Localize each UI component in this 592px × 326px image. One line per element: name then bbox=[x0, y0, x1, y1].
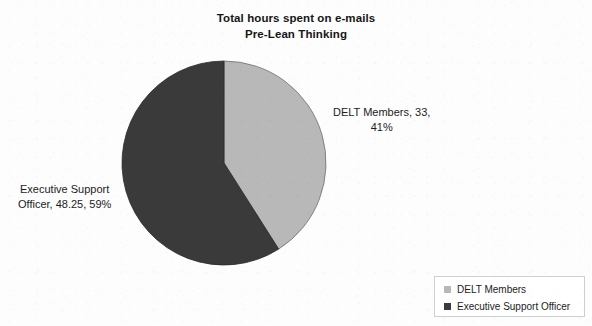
chart-title-line-2: Pre-Lean Thinking bbox=[0, 26, 592, 42]
legend-swatch-icon-delt-members bbox=[444, 286, 451, 293]
data-label-executive-support-officer-line-2: Officer, 48.25, 59% bbox=[18, 197, 111, 212]
data-label-executive-support-officer-line-1: Executive Support bbox=[18, 182, 111, 197]
data-label-delt-members: DELT Members, 33, 41% bbox=[333, 105, 430, 135]
legend-item-executive-support-officer[interactable]: Executive Support Officer bbox=[444, 299, 584, 314]
chart-legend: DELT Members Executive Support Officer bbox=[434, 276, 585, 317]
data-label-delt-members-line-1: DELT Members, 33, bbox=[333, 105, 430, 120]
chart-canvas: Total hours spent on e-mails Pre-Lean Th… bbox=[0, 0, 592, 326]
chart-title: Total hours spent on e-mails Pre-Lean Th… bbox=[0, 10, 592, 42]
pie-chart-svg bbox=[121, 60, 327, 266]
data-label-delt-members-line-2: 41% bbox=[333, 120, 430, 135]
legend-label-executive-support-officer: Executive Support Officer bbox=[457, 301, 570, 312]
legend-item-delt-members[interactable]: DELT Members bbox=[444, 282, 584, 297]
legend-label-delt-members: DELT Members bbox=[457, 284, 526, 295]
legend-swatch-icon-executive-support-officer bbox=[444, 303, 451, 310]
pie-chart bbox=[121, 60, 327, 266]
chart-title-line-1: Total hours spent on e-mails bbox=[0, 10, 592, 26]
data-label-executive-support-officer: Executive Support Officer, 48.25, 59% bbox=[18, 182, 111, 212]
